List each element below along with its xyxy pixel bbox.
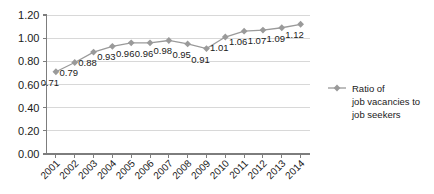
x-tick-label-2014: 2014 bbox=[283, 157, 307, 181]
x-tick-label-2002: 2002 bbox=[57, 157, 81, 181]
x-tick-label-2011: 2011 bbox=[227, 157, 250, 180]
line-chart: 0.000.200.400.600.801.001.20200120022003… bbox=[0, 0, 434, 194]
data-label-2001: 0.71 bbox=[41, 77, 60, 88]
data-point-2012 bbox=[260, 27, 267, 34]
x-tick-label-2005: 2005 bbox=[114, 157, 138, 181]
data-point-2009 bbox=[203, 45, 210, 52]
x-axis-ticks: 2001200220032004200520062007200820092010… bbox=[38, 154, 306, 181]
data-point-2008 bbox=[184, 41, 191, 48]
x-tick-label-2009: 2009 bbox=[189, 157, 213, 181]
data-label-2011: 1.06 bbox=[229, 36, 248, 47]
x-tick-label-2010: 2010 bbox=[208, 157, 232, 181]
data-label-2006: 0.96 bbox=[135, 48, 154, 59]
y-tick-label: 0.20 bbox=[18, 125, 39, 137]
data-label-2012: 1.07 bbox=[248, 35, 267, 46]
data-point-2010 bbox=[222, 34, 229, 41]
y-tick-label: 1.00 bbox=[18, 32, 39, 44]
data-point-2011 bbox=[241, 28, 248, 35]
legend-label-line-1: Ratio of bbox=[352, 83, 385, 94]
x-tick-label-2012: 2012 bbox=[245, 157, 269, 181]
data-label-2003: 0.88 bbox=[78, 57, 97, 68]
data-label-2002: 0.79 bbox=[59, 67, 78, 78]
data-label-2010: 1.01 bbox=[210, 42, 229, 53]
y-tick-label: 0.00 bbox=[18, 148, 39, 160]
x-tick-label-2004: 2004 bbox=[95, 157, 119, 181]
legend-marker-diamond bbox=[334, 85, 341, 92]
x-tick-label-2006: 2006 bbox=[132, 157, 156, 181]
x-tick-label-2003: 2003 bbox=[76, 157, 100, 181]
data-label-2009: 0.91 bbox=[191, 54, 210, 65]
y-tick-label: 1.20 bbox=[18, 9, 39, 21]
data-point-2014 bbox=[297, 21, 304, 28]
data-point-2005 bbox=[128, 39, 135, 46]
data-label-2014: 1.12 bbox=[285, 29, 304, 40]
data-point-2002 bbox=[71, 59, 78, 66]
data-point-2003 bbox=[90, 49, 97, 56]
legend-label-line-2: job vacancies to bbox=[351, 96, 420, 107]
x-tick-label-2008: 2008 bbox=[170, 157, 194, 181]
legend-label-line-3: job seekers bbox=[351, 109, 401, 120]
data-label-2005: 0.96 bbox=[116, 48, 135, 59]
y-tick-label: 0.80 bbox=[18, 55, 39, 67]
data-label-2007: 0.98 bbox=[154, 45, 173, 56]
x-tick-label-2001: 2001 bbox=[38, 157, 62, 181]
chart-container: 0.000.200.400.600.801.001.20200120022003… bbox=[0, 0, 434, 194]
data-point-2001 bbox=[53, 68, 60, 75]
y-tick-label: 0.60 bbox=[18, 79, 39, 91]
data-point-2013 bbox=[278, 24, 285, 31]
legend: Ratio ofjob vacancies tojob seekers bbox=[328, 83, 420, 120]
x-tick-label-2007: 2007 bbox=[151, 157, 175, 181]
data-label-2008: 0.95 bbox=[172, 49, 191, 60]
data-label-2004: 0.93 bbox=[97, 51, 116, 62]
y-tick-label: 0.40 bbox=[18, 102, 39, 114]
data-point-2006 bbox=[147, 39, 154, 46]
x-tick-label-2013: 2013 bbox=[264, 157, 288, 181]
data-label-2013: 1.09 bbox=[267, 33, 286, 44]
data-point-2004 bbox=[109, 43, 116, 50]
